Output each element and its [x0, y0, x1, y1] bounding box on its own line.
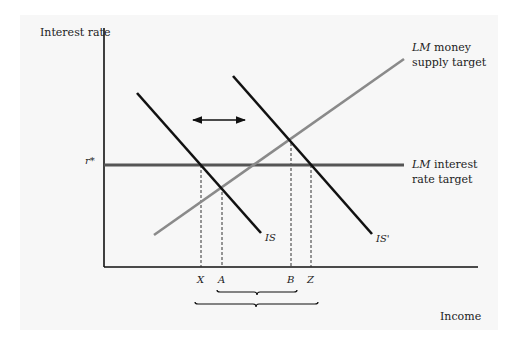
- inner-brace: [217, 290, 297, 295]
- is-lm-diagram: Interest rate Income r* IS IS' LM money …: [0, 0, 516, 343]
- is-label: IS: [264, 232, 276, 243]
- lm-money-label-line1: LM money: [411, 41, 472, 54]
- lm-rate-label-rest: interest: [431, 158, 478, 171]
- point-x-label: X: [196, 274, 205, 285]
- point-z-label: Z: [306, 274, 315, 285]
- lm-rate-label-line2: rate target: [412, 173, 473, 186]
- is-curve: [137, 93, 261, 233]
- lm-rate-label-line1: LM interest: [411, 158, 478, 171]
- lm-money-label-line2: supply target: [412, 56, 487, 69]
- outer-brace: [195, 302, 318, 307]
- is-prime-curve: [233, 76, 372, 234]
- r-star-label: r*: [85, 155, 95, 166]
- lm-money-supply-line: [154, 59, 404, 235]
- point-b-label: B: [286, 274, 294, 285]
- lm-money-label-lm: LM: [411, 41, 431, 54]
- lm-money-label-rest: money: [431, 41, 472, 54]
- x-axis-label: Income: [440, 310, 481, 323]
- y-axis-label: Interest rate: [40, 26, 110, 39]
- lm-rate-label-lm: LM: [411, 158, 431, 171]
- is-prime-label: IS': [375, 233, 390, 244]
- point-a-label: A: [217, 274, 225, 285]
